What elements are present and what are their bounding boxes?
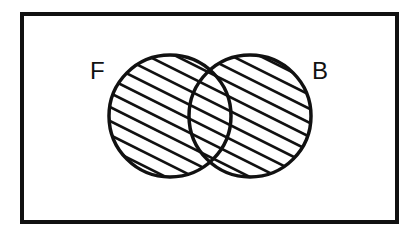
hatch-line — [100, 116, 320, 226]
hatch-line — [100, 0, 320, 58]
hatch-line — [100, 186, 320, 237]
hatch-line — [100, 200, 320, 237]
venn-diagram: F B — [0, 0, 408, 237]
hatch-line — [100, 102, 320, 212]
hatch-line — [100, 18, 320, 128]
hatch-line — [100, 4, 320, 114]
set-f-label: F — [90, 57, 105, 84]
hatch-line — [100, 214, 320, 237]
hatch-line — [100, 60, 320, 170]
set-b-label: B — [312, 57, 328, 84]
hatch-line — [100, 74, 320, 184]
hatch-line — [100, 228, 320, 237]
hatch-line — [100, 0, 320, 72]
hatch-line — [100, 46, 320, 156]
set-b-circle — [189, 55, 311, 177]
hatch-line — [100, 172, 320, 237]
universal-set-rectangle — [22, 14, 397, 222]
hatch-line — [100, 0, 320, 44]
hatch-line — [100, 158, 320, 237]
hatch-line — [100, 88, 320, 198]
shaded-region-union — [100, 0, 320, 237]
hatch-line — [100, 32, 320, 142]
